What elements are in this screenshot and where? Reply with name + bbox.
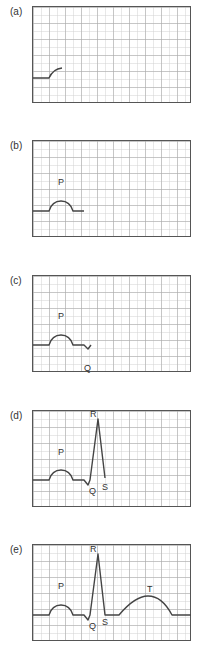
trace-d xyxy=(33,419,105,485)
trace-a xyxy=(33,68,62,78)
trace-e xyxy=(33,554,191,620)
wave-label-q-e: Q xyxy=(89,621,96,631)
wave-label-p-c: P xyxy=(58,311,64,321)
wave-label-t-e: T xyxy=(147,584,153,594)
trace-b xyxy=(33,201,84,211)
trace-c xyxy=(33,335,91,349)
wave-label-p-e: P xyxy=(58,581,64,591)
wave-label-p-d: P xyxy=(58,447,64,457)
wave-label-r-d: R xyxy=(90,409,97,419)
wave-label-r-e: R xyxy=(90,544,97,554)
wave-label-s-d: S xyxy=(102,482,108,492)
wave-label-q-d: Q xyxy=(89,486,96,496)
ecg-traces: P P Q P R Q S P R Q S T xyxy=(0,0,210,653)
wave-label-q-c: Q xyxy=(84,363,91,373)
wave-label-s-e: S xyxy=(102,617,108,627)
wave-label-p-b: P xyxy=(58,177,64,187)
